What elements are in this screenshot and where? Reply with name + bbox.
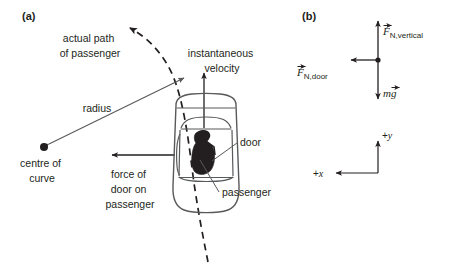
physics-figure: (a) <box>0 0 450 270</box>
centre-of-curve-dot <box>40 143 48 151</box>
label-weight: mg <box>383 87 397 99</box>
axis-x-label: +x <box>313 168 324 179</box>
annotation-door: door <box>240 136 262 148</box>
free-body-origin-dot <box>375 57 380 62</box>
panel-a-label: (a) <box>22 10 36 22</box>
panel-b-label: (b) <box>302 10 316 22</box>
passenger-head <box>197 130 210 141</box>
annotation-radius: radius <box>83 102 112 114</box>
annotation-force-of-door-on-passenger: force of door on passenger <box>105 168 155 210</box>
axis-y-label: +y <box>382 130 393 141</box>
annotation-passenger: passenger <box>222 186 272 198</box>
